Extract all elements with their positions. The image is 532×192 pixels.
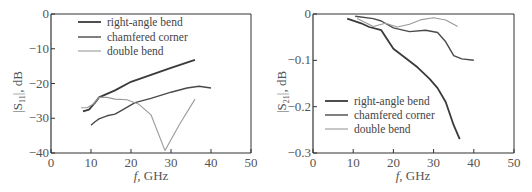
legend-label-double: double bend <box>107 45 164 57</box>
x-tick-label: 50 <box>508 155 521 170</box>
series-line-right-angle-bend <box>347 19 460 140</box>
x-tick-label: 0 <box>310 155 317 170</box>
left-x-ticks: 01020304050 <box>48 149 258 170</box>
s21-chart: 0−0.1−0.2−0.3 01020304050 right-angle be… <box>274 6 521 183</box>
y-tick-label: −0.3 <box>287 145 311 160</box>
y-tick-label: −20 <box>29 76 49 91</box>
figure: 0−10−20−30−40 01020304050 right-angle be… <box>0 0 532 192</box>
x-tick-label: 40 <box>205 155 218 170</box>
legend-label-right-angle: right-angle bend <box>107 16 183 29</box>
y-tick-label: −0.1 <box>287 52 311 67</box>
series-line-right-angle-bend <box>83 60 195 111</box>
right-legend: right-angle bend chamfered corner double… <box>325 95 435 135</box>
s11-chart: 0−10−20−30−40 01020304050 right-angle be… <box>10 6 258 183</box>
right-x-ticks: 01020304050 <box>310 149 521 170</box>
series-line-double-bend <box>81 97 195 150</box>
legend-label-chamfered: chamfered corner <box>354 109 435 121</box>
y-tick-label: 0 <box>43 6 50 21</box>
y-tick-label: −40 <box>29 145 49 160</box>
legend-label-double: double bend <box>354 123 411 135</box>
left-y-label: |S11|, dB <box>10 71 27 113</box>
y-tick-label: −30 <box>29 110 49 125</box>
legend-label-chamfered: chamfered corner <box>107 31 188 43</box>
x-tick-label: 10 <box>347 155 360 170</box>
x-tick-label: 40 <box>467 155 480 170</box>
y-tick-label: 0 <box>305 6 312 21</box>
left-legend: right-angle bend chamfered corner double… <box>78 16 188 57</box>
series-line-chamfered-corner <box>355 16 474 60</box>
right-y-label: |S21|, dB <box>274 71 291 113</box>
x-tick-label: 50 <box>245 155 258 170</box>
right-x-label: f, GHz <box>396 168 431 183</box>
x-tick-label: 0 <box>48 155 55 170</box>
left-x-label: f, GHz <box>134 168 169 183</box>
y-tick-label: −10 <box>29 41 49 56</box>
x-tick-label: 10 <box>85 155 98 170</box>
left-series <box>81 60 211 151</box>
legend-label-right-angle: right-angle bend <box>354 95 430 108</box>
